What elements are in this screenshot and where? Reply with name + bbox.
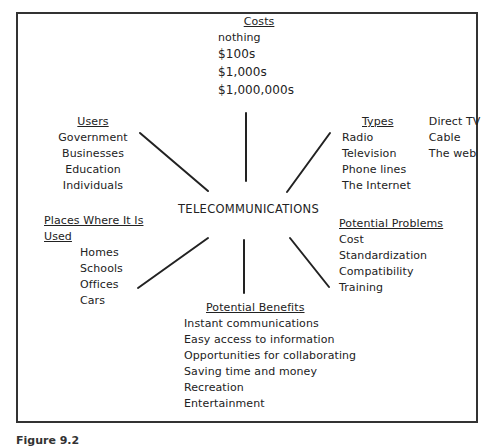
list-item: Standardization <box>339 248 459 264</box>
list-item: $1,000s <box>218 63 294 81</box>
list-item: Homes <box>44 245 174 261</box>
branch-title-benefits: Potential Benefits <box>184 300 384 316</box>
branch-title-problems: Potential Problems <box>339 216 459 232</box>
list-item: Direct TV <box>429 114 481 130</box>
list-item: The web <box>429 146 481 162</box>
list-item: Instant communications <box>184 316 384 332</box>
branch-types: Types Radio Television Phone lines The I… <box>342 114 482 194</box>
list-item: Cost <box>339 232 459 248</box>
branch-places: Places Where It Is Used Homes Schools Of… <box>44 213 174 309</box>
figure-caption: Figure 9.2 <box>16 434 79 447</box>
list-item: Individuals <box>46 178 140 194</box>
list-item: $1,000,000s <box>218 81 294 99</box>
branch-title-costs: Costs <box>218 14 294 30</box>
list-item: Training <box>339 280 459 296</box>
branch-title-users: Users <box>46 114 140 130</box>
list-item: Compatibility <box>339 264 459 280</box>
list-item: nothing <box>218 30 294 45</box>
list-item: Cable <box>429 130 481 146</box>
branch-users: Users Government Businesses Education In… <box>46 114 140 194</box>
connector-problems <box>290 238 329 287</box>
list-item: Cars <box>44 293 174 309</box>
list-item: Radio <box>342 130 411 146</box>
list-item: Schools <box>44 261 174 277</box>
types-column-1: Radio Television Phone lines The Interne… <box>342 130 411 194</box>
types-column-2: Direct TV Cable The web <box>429 114 481 194</box>
list-item: Offices <box>44 277 174 293</box>
list-item: Entertainment <box>184 396 384 412</box>
list-item: Government <box>46 130 140 146</box>
list-item: Recreation <box>184 380 384 396</box>
list-item: The Internet <box>342 178 411 194</box>
branch-costs: Costs nothing $100s $1,000s $1,000,000s <box>218 14 294 99</box>
list-item: Opportunities for collaborating <box>184 348 384 364</box>
connector-types <box>287 133 330 192</box>
connector-users <box>140 133 208 191</box>
list-item: Education <box>46 162 140 178</box>
list-item: Phone lines <box>342 162 411 178</box>
branch-title-places: Places Where It Is Used <box>44 213 174 245</box>
branch-benefits: Potential Benefits Instant communication… <box>184 300 384 412</box>
branch-problems: Potential Problems Cost Standardization … <box>339 216 459 296</box>
list-item: Television <box>342 146 411 162</box>
list-item: Saving time and money <box>184 364 384 380</box>
list-item: $100s <box>218 45 294 63</box>
list-item: Easy access to information <box>184 332 384 348</box>
hub-label: TELECOMMUNICATIONS <box>178 202 319 216</box>
list-item: Businesses <box>46 146 140 162</box>
